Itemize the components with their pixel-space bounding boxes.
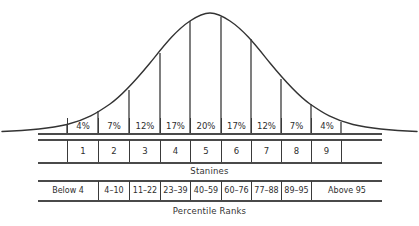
stanine-cell-2: 2 [98,140,129,162]
stanine-cell-1: 1 [67,140,98,162]
stanines-axis-label: Stanines [0,166,419,176]
rule-below-stanine-row [38,162,382,164]
percent-of-cases-row: 4% 7% 12% 17% 20% 17% 12% 7% 4% [67,118,342,133]
percent-cell-8: 7% [281,118,311,133]
stanine-divider-lines [67,17,341,133]
percent-cell-4: 17% [160,118,190,133]
percentile-cell-7: 77–88 [251,181,281,200]
stanine-cell-9: 9 [311,140,342,162]
percentile-cell-1: Below 4 [38,181,98,200]
stanine-cell-4: 4 [160,140,190,162]
percentile-rank-row: Below 4 4–10 11–22 23–39 40–59 60–76 77–… [38,181,382,200]
percent-cell-1: 4% [67,118,98,133]
stanine-cell-3: 3 [129,140,160,162]
percent-cell-3: 12% [129,118,160,133]
percentile-cell-6: 60–76 [221,181,251,200]
stanine-distribution-figure: 4% 7% 12% 17% 20% 17% 12% 7% 4% 1 2 3 4 … [0,0,419,226]
percentile-cell-3: 11–22 [129,181,160,200]
percent-cell-9: 4% [311,118,342,133]
percentile-cell-8: 89–95 [281,181,311,200]
rule-below-percentile-row [38,200,382,202]
stanine-number-row: 1 2 3 4 5 6 7 8 9 [67,140,342,162]
stanine-cell-5: 5 [190,140,221,162]
percent-cell-2: 7% [98,118,129,133]
percentile-cell-9: Above 95 [311,181,382,200]
stanine-cell-6: 6 [221,140,251,162]
normal-curve-path [2,13,417,132]
percentile-cell-5: 40–59 [190,181,221,200]
percentile-ranks-axis-label: Percentile Ranks [0,206,419,216]
percent-cell-7: 12% [251,118,281,133]
stanine-cell-7: 7 [251,140,281,162]
percentile-cell-4: 23–39 [160,181,190,200]
stanine-cell-8: 8 [281,140,311,162]
percent-cell-6: 17% [221,118,251,133]
percent-cell-5: 20% [190,118,221,133]
rule-baseline [38,133,382,135]
percentile-cell-2: 4–10 [98,181,129,200]
